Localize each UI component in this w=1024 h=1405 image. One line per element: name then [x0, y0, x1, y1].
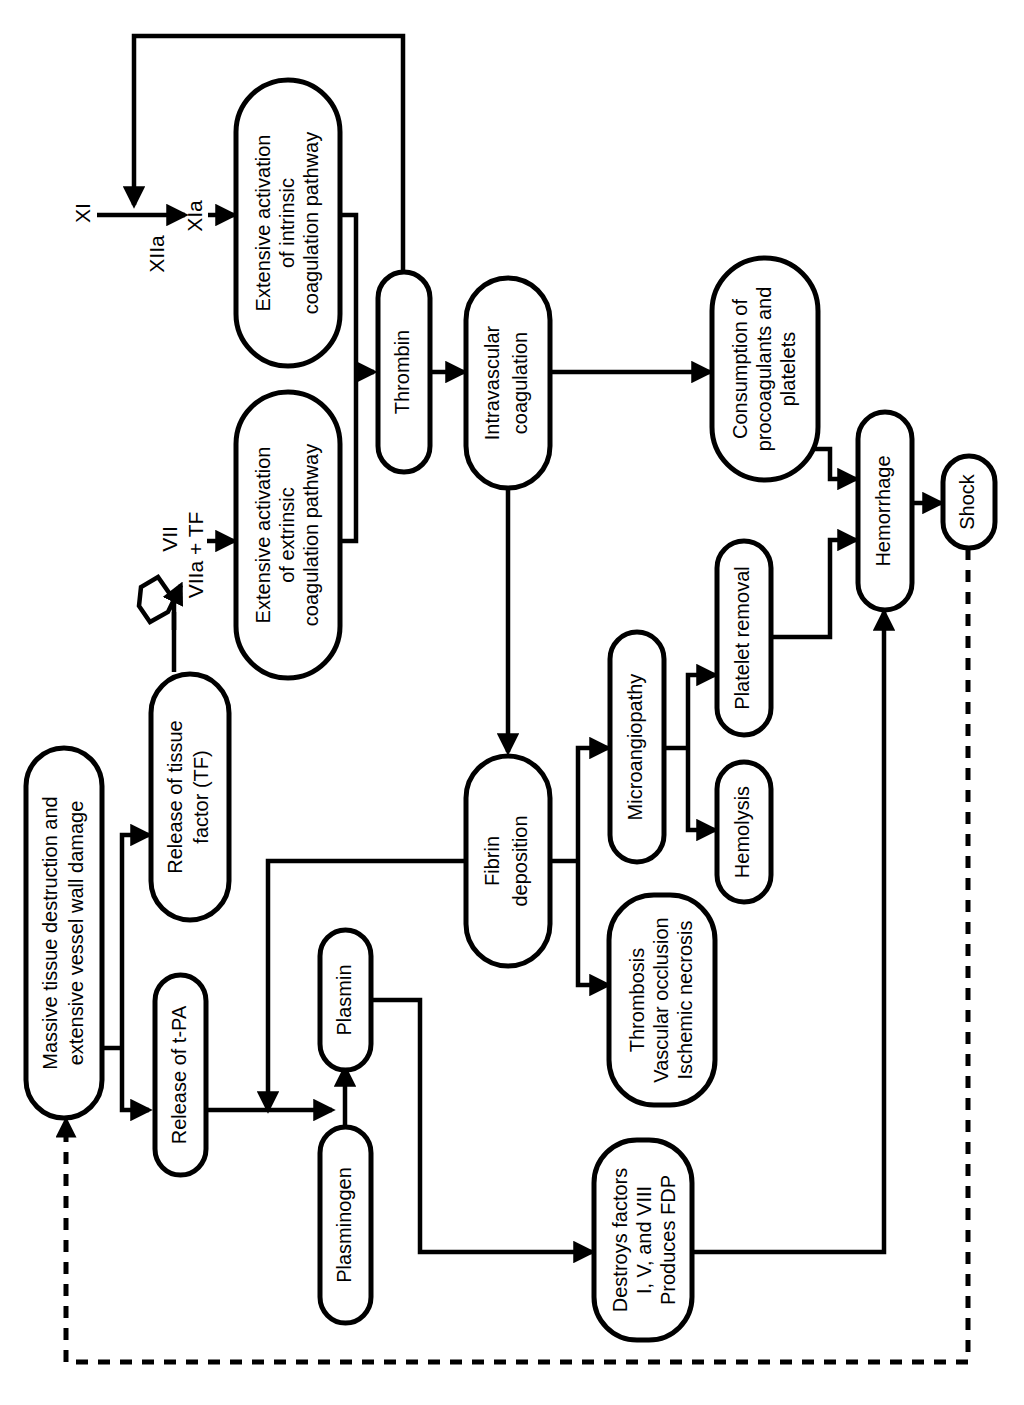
node-release-tissue-factor[interactable]: Release of tissue factor (TF) — [151, 674, 229, 920]
node-hemorrhage[interactable]: Hemorrhage — [858, 412, 912, 610]
node-fibrin-deposition[interactable]: Fibrin deposition — [466, 756, 550, 966]
node-shock[interactable]: Shock — [943, 456, 995, 548]
node-platelet-removal[interactable]: Platelet removal — [717, 541, 771, 735]
node-destroys-factors-line-1: I, V, and VIII — [633, 1186, 655, 1294]
node-consumption-line-1: procoagulants and — [753, 287, 775, 452]
label-factor-xia: XIa — [183, 200, 206, 232]
node-plasmin[interactable]: Plasmin — [320, 930, 371, 1070]
node-plasminogen-label: Plasminogen — [333, 1167, 355, 1283]
node-destroys-factors-line-0: Destroys factors — [609, 1168, 631, 1312]
node-microangiopathy[interactable]: Microangiopathy — [610, 632, 664, 862]
node-intravascular-coagulation-line-0: Intravascular — [481, 325, 503, 440]
node-release-tissue-factor-line-1: factor (TF) — [190, 750, 212, 843]
node-destroys-factors[interactable]: Destroys factors I, V, and VIII Produces… — [594, 1140, 692, 1340]
node-intrinsic-pathway-line-2: coagulation pathway — [300, 132, 322, 314]
label-factor-xiia: XIIa — [145, 235, 168, 273]
node-plasminogen[interactable]: Plasminogen — [320, 1127, 371, 1323]
node-extrinsic-pathway[interactable]: Extensive activation of extrinsic coagul… — [236, 392, 340, 678]
node-fibrin-deposition-line-0: Fibrin — [481, 836, 503, 886]
node-consumption-line-2: platelets — [777, 332, 799, 407]
node-hemorrhage-label: Hemorrhage — [872, 455, 894, 566]
node-intrinsic-pathway-line-1: of intrinsic — [276, 178, 298, 268]
node-platelet-removal-label: Platelet removal — [731, 566, 753, 709]
node-massive-tissue-destruction-line-0: Massive tissue destruction and — [39, 796, 61, 1069]
node-extrinsic-pathway-line-0: Extensive activation — [252, 447, 274, 624]
dic-flowchart-page: Extensive activation of intrinsic coagul… — [0, 0, 1024, 1405]
node-intravascular-coagulation-line-1: coagulation — [509, 332, 531, 434]
node-microangiopathy-label: Microangiopathy — [624, 674, 646, 821]
node-release-tpa-label: Release of t-PA — [168, 1005, 190, 1144]
node-thrombin[interactable]: Thrombin — [378, 272, 430, 472]
node-massive-tissue-destruction-shape — [26, 748, 102, 1118]
label-factor-viia-tf: VIIa + TF — [184, 512, 207, 599]
node-fibrin-deposition-line-1: deposition — [509, 815, 531, 906]
node-intravascular-coagulation[interactable]: Intravascular coagulation — [466, 278, 550, 488]
node-hemolysis-label: Hemolysis — [731, 786, 753, 878]
label-factor-vii: VII — [158, 526, 181, 552]
node-consumption[interactable]: Consumption of procoagulants and platele… — [712, 258, 818, 480]
node-thrombin-label: Thrombin — [391, 330, 413, 414]
node-fibrin-deposition-shape — [466, 756, 550, 966]
node-thrombosis-line-0: Thrombosis — [626, 948, 648, 1052]
node-thrombosis-line-1: Vascular occlusion — [650, 917, 672, 1082]
node-massive-tissue-destruction[interactable]: Massive tissue destruction and extensive… — [26, 748, 102, 1118]
flowchart-canvas: Extensive activation of intrinsic coagul… — [0, 0, 1024, 1405]
node-thrombosis-line-2: Ischemic necrosis — [674, 921, 696, 1080]
node-extrinsic-pathway-line-2: coagulation pathway — [300, 444, 322, 626]
node-massive-tissue-destruction-line-1: extensive vessel wall damage — [65, 801, 87, 1066]
node-intrinsic-pathway-line-0: Extensive activation — [252, 135, 274, 312]
node-intravascular-coagulation-shape — [466, 278, 550, 488]
node-plasmin-label: Plasmin — [333, 964, 355, 1035]
node-release-tissue-factor-line-0: Release of tissue — [164, 720, 186, 873]
node-thrombosis[interactable]: Thrombosis Vascular occlusion Ischemic n… — [609, 895, 715, 1105]
node-destroys-factors-line-2: Produces FDP — [657, 1175, 679, 1305]
node-extrinsic-pathway-line-1: of extrinsic — [276, 487, 298, 583]
label-factor-xi: XI — [71, 203, 94, 223]
node-consumption-line-0: Consumption of — [729, 299, 751, 440]
node-release-tpa[interactable]: Release of t-PA — [155, 975, 206, 1175]
node-shock-label: Shock — [956, 473, 978, 530]
node-intrinsic-pathway[interactable]: Extensive activation of intrinsic coagul… — [236, 80, 340, 366]
node-hemolysis[interactable]: Hemolysis — [717, 762, 771, 902]
